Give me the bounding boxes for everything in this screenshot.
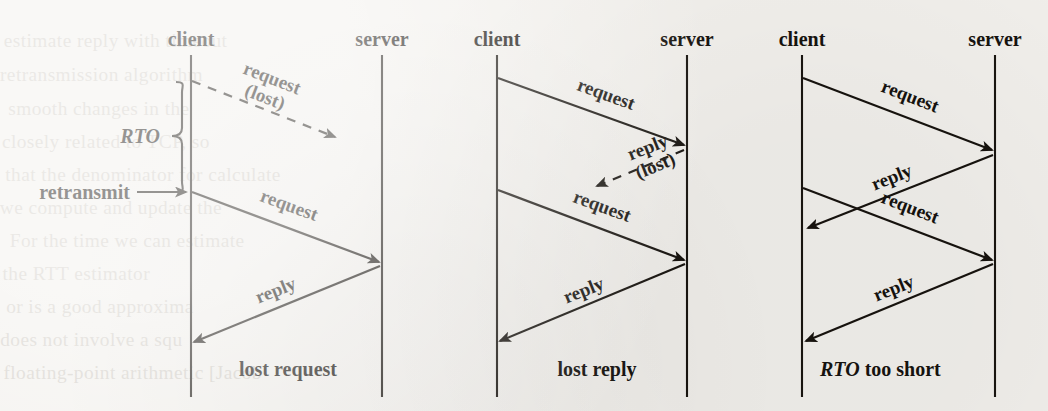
panel2-caption: lost reply	[557, 358, 636, 381]
panel1-client-label: client	[168, 28, 215, 50]
panel1-retransmit-label: retransmit	[39, 181, 130, 203]
panel3-client-label: client	[779, 28, 826, 50]
panel2-message-label-4: reply	[560, 272, 607, 307]
panel2-server-label: server	[660, 28, 713, 50]
panel3-caption-italic: RTO	[819, 358, 860, 380]
figure-svg: client server RTO retransmit request (lo…	[0, 0, 1048, 411]
panel3-message-label-4: reply	[870, 270, 917, 305]
panel1-server-label: server	[355, 28, 408, 50]
panel-rto-too-short: client server request reply request re	[779, 28, 1022, 397]
panel-lost-request: client server RTO retransmit request (lo…	[39, 28, 408, 397]
panel1-rto-brace	[172, 82, 183, 192]
panel3-caption-rest: too short	[860, 358, 941, 380]
panel3-caption: RTO too short	[819, 358, 941, 380]
panel3-server-label: server	[968, 28, 1021, 50]
panel2-client-label: client	[474, 28, 521, 50]
scanned-figure-page: estimate reply with timeout retransmissi…	[0, 0, 1048, 411]
panel1-rto-label: RTO	[119, 125, 160, 147]
panel-lost-reply: client server request reply (lost) reque…	[474, 28, 714, 397]
panel1-caption: lost request	[239, 358, 337, 381]
